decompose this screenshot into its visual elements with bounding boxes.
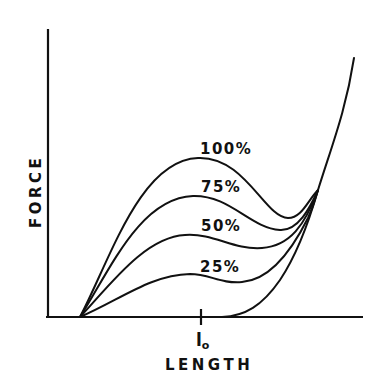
- curve-passive: [222, 58, 354, 317]
- curve-25: [80, 190, 318, 317]
- x-axis-label: LENGTH: [165, 356, 253, 374]
- label-75: 75%: [201, 178, 241, 196]
- force-length-chart: 100% 75% 50% 25% lo LENGTH FORCE: [0, 0, 384, 387]
- y-axis-label: FORCE: [27, 155, 45, 228]
- curve-100: [80, 158, 318, 317]
- curve-75: [80, 190, 318, 317]
- label-100: 100%: [200, 140, 252, 158]
- label-25: 25%: [200, 258, 240, 276]
- label-50: 50%: [201, 217, 241, 235]
- curve-50: [80, 190, 318, 317]
- tick-label-l0: lo: [196, 330, 210, 352]
